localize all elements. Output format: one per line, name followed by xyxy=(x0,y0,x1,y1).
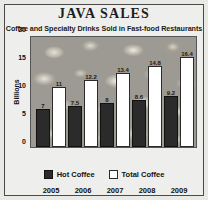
x-tick-2007: 2007 xyxy=(107,186,124,195)
bar-value-label: 12.2 xyxy=(85,74,97,80)
bar-total-coffee-2008: 14.8 xyxy=(148,66,162,147)
bar-total-coffee-2009: 16.4 xyxy=(180,57,194,147)
bar-value-label: 8.6 xyxy=(135,94,143,100)
bar-hot-coffee-2007: 8 xyxy=(100,103,114,147)
bar-value-label: 11 xyxy=(56,81,62,87)
bar-total-coffee-2005: 11 xyxy=(52,87,66,148)
y-tick-20: 20 xyxy=(18,26,30,33)
java-sales-chart-card: JAVA SALES Coffee and Specialty Drinks S… xyxy=(0,0,208,200)
y-tick-10: 10 xyxy=(18,82,30,89)
bar-value-label: 9.2 xyxy=(167,90,175,96)
chart-title: JAVA SALES xyxy=(0,6,208,22)
plot-area: Billions 20 15 10 5 0 7 11 7.5 12.2 8 13… xyxy=(30,36,197,148)
chart-subtitle: Coffee and Specialty Drinks Sold in Fast… xyxy=(0,24,208,33)
bar-total-coffee-2007: 13.4 xyxy=(116,73,130,147)
legend-label-hot-coffee: Hot Coffee xyxy=(57,170,95,179)
bar-value-label: 14.8 xyxy=(149,60,161,66)
legend-item-total-coffee: Total Coffee xyxy=(109,170,165,179)
bar-value-label: 13.4 xyxy=(117,67,129,73)
y-tick-15: 15 xyxy=(18,54,30,61)
bar-hot-coffee-2009: 9.2 xyxy=(164,96,178,147)
legend-swatch-hot-coffee-icon xyxy=(44,170,53,179)
legend-swatch-total-coffee-icon xyxy=(109,170,118,179)
legend-label-total-coffee: Total Coffee xyxy=(122,170,165,179)
bar-value-label: 7 xyxy=(41,103,44,109)
x-tick-2009: 2009 xyxy=(171,186,188,195)
x-tick-2008: 2008 xyxy=(139,186,156,195)
bar-total-coffee-2006: 12.2 xyxy=(84,80,98,147)
plot-inner: 7 11 7.5 12.2 8 13.4 8.6 14.8 9.2 16.4 xyxy=(30,36,197,148)
chart-legend: Hot Coffee Total Coffee xyxy=(0,170,208,179)
x-tick-2006: 2006 xyxy=(75,186,92,195)
bar-value-label: 7.5 xyxy=(71,100,79,106)
y-tick-0: 0 xyxy=(22,138,30,145)
x-tick-2005: 2005 xyxy=(43,186,60,195)
y-tick-5: 5 xyxy=(22,110,30,117)
bar-value-label: 8 xyxy=(105,97,108,103)
legend-item-hot-coffee: Hot Coffee xyxy=(44,170,95,179)
bar-hot-coffee-2005: 7 xyxy=(36,109,50,148)
bar-hot-coffee-2006: 7.5 xyxy=(68,106,82,147)
bar-value-label: 16.4 xyxy=(181,51,193,57)
bar-hot-coffee-2008: 8.6 xyxy=(132,100,146,147)
